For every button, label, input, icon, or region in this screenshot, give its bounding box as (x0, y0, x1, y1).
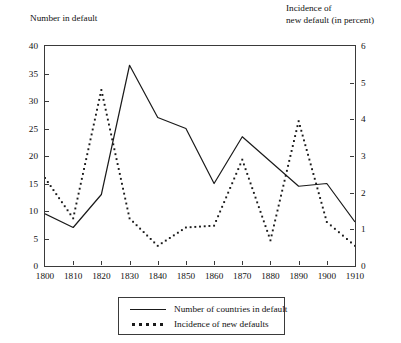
y-tickmark-right-5 (350, 83, 354, 84)
y-tickmark-left-20 (45, 156, 49, 157)
y-tick-right-6: 6 (361, 41, 379, 51)
y-tickmark-left-35 (45, 74, 49, 75)
y-tick-left-40: 40 (20, 41, 38, 51)
right-axis-title: Incidence of new default (in percent) (286, 3, 374, 26)
legend: Number of countries in default Incidence… (118, 297, 285, 335)
y-tick-left-35: 35 (20, 69, 38, 79)
x-tick-1860: 1860 (205, 271, 223, 281)
y-tick-left-10: 10 (20, 206, 38, 216)
x-tick-1890: 1890 (289, 271, 307, 281)
y-tickmark-left-30 (45, 101, 49, 102)
x-tickmark-1860 (214, 261, 215, 265)
x-tick-1910: 1910 (346, 271, 364, 281)
y-tickmark-right-2 (350, 193, 354, 194)
y-tick-right-1: 1 (361, 224, 379, 234)
y-tick-right-5: 5 (361, 78, 379, 88)
y-tickmark-right-3 (350, 156, 354, 157)
x-tick-1820: 1820 (92, 271, 110, 281)
y-tickmark-left-10 (45, 211, 49, 212)
x-tickmark-1900 (327, 261, 328, 265)
y-tick-left-20: 20 (20, 151, 38, 161)
x-tick-1840: 1840 (149, 271, 167, 281)
x-tick-1880: 1880 (261, 271, 279, 281)
y-tickmark-left-25 (45, 129, 49, 130)
y-tick-left-15: 15 (20, 179, 38, 189)
x-tick-1850: 1850 (177, 271, 195, 281)
y-tick-right-4: 4 (361, 114, 379, 124)
x-tick-1800: 1800 (36, 271, 54, 281)
x-tickmark-1870 (242, 261, 243, 265)
x-tickmark-1880 (270, 261, 271, 265)
y-tick-left-30: 30 (20, 96, 38, 106)
series-dots-1 (45, 89, 355, 247)
x-tick-1870: 1870 (233, 271, 251, 281)
legend-dotted-line-icon (128, 319, 168, 329)
legend-item-dotted: Incidence of new defaults (128, 318, 269, 330)
chart-figure: Number in default Incidence of new defau… (0, 0, 401, 343)
legend-item-solid: Number of countries in default (128, 303, 287, 315)
y-tick-left-0: 0 (20, 261, 38, 271)
x-tickmark-1810 (73, 261, 74, 265)
legend-dotted-label: Incidence of new defaults (168, 319, 269, 329)
x-tickmark-1820 (101, 261, 102, 265)
left-axis-title: Number in default (30, 13, 97, 25)
x-tick-1810: 1810 (64, 271, 82, 281)
y-tick-left-5: 5 (20, 234, 38, 244)
legend-solid-line-icon (128, 304, 168, 314)
y-tickmark-right-1 (350, 229, 354, 230)
series-line-0 (45, 65, 355, 227)
x-tick-1900: 1900 (318, 271, 336, 281)
y-tickmark-right-4 (350, 119, 354, 120)
x-tickmark-1890 (299, 261, 300, 265)
x-tickmark-1830 (130, 261, 131, 265)
legend-solid-label: Number of countries in default (168, 304, 287, 314)
y-tick-right-3: 3 (361, 151, 379, 161)
x-tick-1830: 1830 (120, 271, 138, 281)
x-tickmark-1840 (158, 261, 159, 265)
y-tick-right-2: 2 (361, 188, 379, 198)
y-tickmark-left-15 (45, 184, 49, 185)
x-tickmark-1850 (186, 261, 187, 265)
y-tickmark-left-5 (45, 239, 49, 240)
plot-area (44, 45, 356, 267)
y-tick-left-25: 25 (20, 124, 38, 134)
y-tick-right-0: 0 (361, 261, 379, 271)
plot-svg (45, 46, 355, 266)
